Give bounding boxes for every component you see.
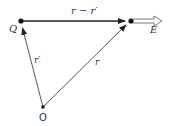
- point-q: [18, 18, 23, 23]
- vector-r-prime: [23, 28, 44, 107]
- vector-diagram: r − r′ Q E r′ r O: [0, 0, 172, 126]
- label-q: Q: [9, 23, 17, 34]
- point-p: [128, 18, 133, 23]
- point-o: [42, 106, 45, 109]
- label-e: E: [149, 24, 158, 35]
- field-e-arrow-icon: [133, 16, 162, 26]
- label-r-minus-r-prime: r − r′: [71, 5, 98, 16]
- vector-r: [43, 25, 126, 107]
- label-r: r: [95, 57, 100, 67]
- label-o: O: [39, 112, 47, 123]
- label-r-prime: r′: [34, 55, 40, 65]
